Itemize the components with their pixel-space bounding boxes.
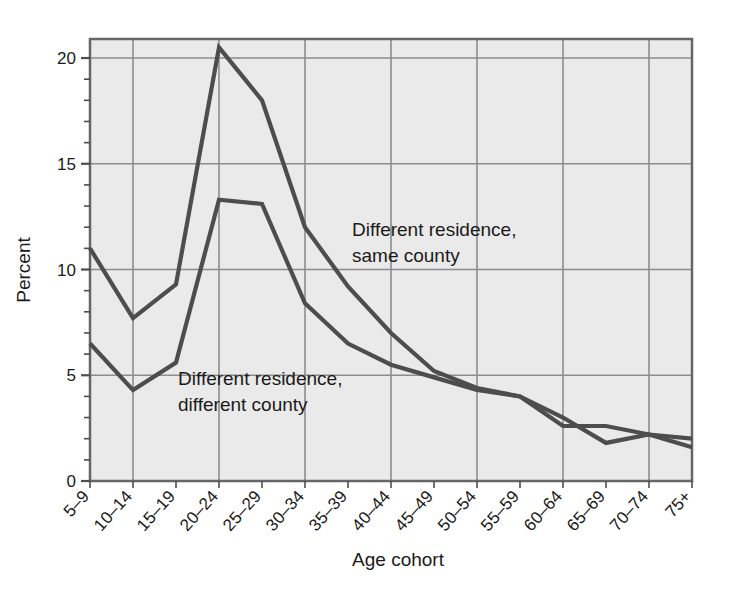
annotation-same-county-line2: same county bbox=[352, 245, 460, 266]
y-tick-label-10: 10 bbox=[57, 261, 76, 280]
annotation-different-county-line2: different county bbox=[178, 394, 308, 415]
x-axis-title: Age cohort bbox=[352, 549, 445, 570]
annotation-same-county-line1: Different residence, bbox=[352, 219, 516, 240]
x-tick-label-35–39: 35–39 bbox=[305, 487, 351, 535]
x-tick-label-75+: 75+ bbox=[662, 487, 695, 521]
x-tick-label-60–64: 60–64 bbox=[520, 487, 566, 535]
y-tick-label-20: 20 bbox=[57, 49, 76, 68]
y-axis-ticks bbox=[81, 58, 90, 481]
x-tick-label-10–14: 10–14 bbox=[90, 487, 136, 535]
x-tick-label-65–69: 65–69 bbox=[563, 487, 609, 535]
x-tick-label-70–74: 70–74 bbox=[606, 487, 652, 535]
y-axis-title: Percent bbox=[13, 237, 34, 303]
x-tick-label-20–24: 20–24 bbox=[176, 487, 222, 535]
annotation-different-county-line1: Different residence, bbox=[178, 368, 342, 389]
line-chart: 05101520 5–910–1415–1920–2425–2930–3435–… bbox=[0, 0, 730, 600]
x-tick-label-50–54: 50–54 bbox=[434, 487, 480, 535]
x-tick-label-40–44: 40–44 bbox=[348, 487, 394, 535]
y-tick-label-5: 5 bbox=[67, 366, 76, 385]
x-tick-label-45–49: 45–49 bbox=[391, 487, 437, 535]
x-tick-label-55–59: 55–59 bbox=[477, 487, 523, 535]
x-tick-label-30–34: 30–34 bbox=[262, 487, 308, 535]
x-tick-label-25–29: 25–29 bbox=[219, 487, 265, 535]
y-tick-label-15: 15 bbox=[57, 155, 76, 174]
x-tick-label-15–19: 15–19 bbox=[133, 487, 179, 535]
figure-container: 05101520 5–910–1415–1920–2425–2930–3435–… bbox=[0, 0, 730, 600]
y-axis-tick-labels: 05101520 bbox=[57, 49, 76, 491]
x-tick-label-5–9: 5–9 bbox=[60, 487, 93, 521]
x-axis-tick-labels: 5–910–1415–1920–2425–2930–3435–3940–4445… bbox=[60, 487, 695, 535]
y-tick-label-0: 0 bbox=[67, 472, 76, 491]
